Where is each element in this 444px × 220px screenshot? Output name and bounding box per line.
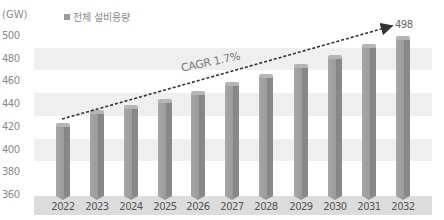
- capacity-bar-chart: (GW) 전체 설비용량 500 480 460 440 420 400 380…: [0, 0, 444, 220]
- x-tick: 2028: [246, 201, 286, 212]
- cagr-trend-arrow-icon: [0, 0, 444, 220]
- x-tick: 2032: [383, 201, 423, 212]
- data-label-2032: 498: [395, 19, 413, 30]
